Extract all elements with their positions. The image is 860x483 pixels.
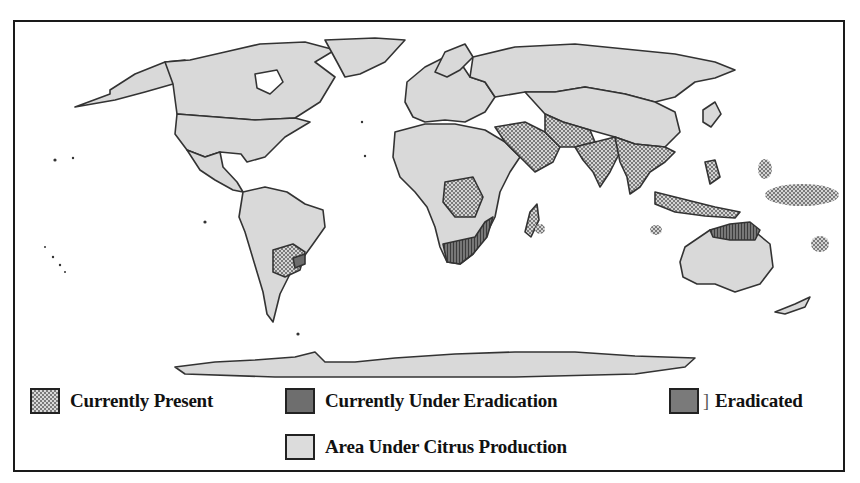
region-indonesia — [655, 192, 740, 218]
region-canada — [165, 42, 335, 120]
swatch-citrus-production — [285, 434, 315, 460]
region-present-india — [575, 137, 620, 187]
region-antarctica — [175, 352, 695, 377]
region-japan — [703, 102, 721, 127]
region-present-pacific-islands — [765, 184, 839, 206]
region-eradication-north-australia — [710, 222, 760, 240]
legend-item-present: Currently Present — [30, 388, 213, 414]
region-mexico — [187, 150, 243, 192]
region-present-fiji — [811, 236, 829, 252]
legend-label-citrus: Area Under Citrus Production — [325, 436, 567, 458]
region-present-reunion — [650, 225, 662, 235]
region-present-micronesia — [758, 159, 772, 179]
swatch-eradicated — [669, 388, 699, 414]
legend-label-under-eradication: Currently Under Eradication — [325, 390, 557, 412]
region-present-indian-ocean-isles — [535, 224, 545, 234]
map-figure-frame: Currently Present Currently Under Eradic… — [13, 20, 845, 472]
legend-item-eradicated: ] Eradicated — [669, 388, 803, 414]
region-greenland — [325, 38, 405, 77]
swatch-under-eradication — [285, 388, 315, 414]
region-present-philippines — [705, 160, 720, 184]
region-new-zealand — [775, 297, 810, 314]
legend-label-present: Currently Present — [70, 390, 213, 412]
legend-item-under-eradication: Currently Under Eradication — [285, 388, 557, 414]
legend-item-citrus: Area Under Citrus Production — [285, 434, 567, 460]
legend-label-eradicated: Eradicated — [715, 390, 803, 412]
bracket-mark: ] — [703, 391, 709, 412]
world-map — [15, 22, 843, 382]
swatch-currently-present — [30, 388, 60, 414]
